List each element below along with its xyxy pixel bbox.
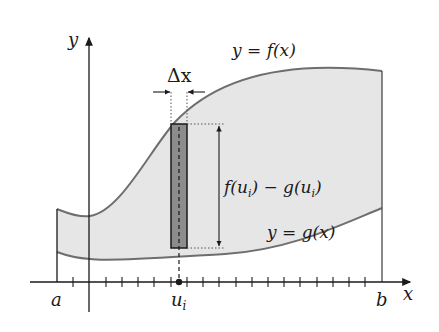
x-axis-label: x <box>403 283 413 304</box>
label-delta-x: Δx <box>167 64 192 86</box>
label-g: y = g(x) <box>266 222 335 242</box>
y-axis-label: y <box>67 29 79 50</box>
label-height: f(ui) − g(ui) <box>222 177 322 200</box>
sample-point-u-i <box>176 279 182 285</box>
label-f: y = f(x) <box>231 40 296 60</box>
label-a: a <box>51 289 62 310</box>
label-b: b <box>376 289 388 310</box>
label-u-i: ui <box>171 289 187 313</box>
area-diagram: y x a b ui y = f(x) y = g(x) Δx f(ui) − … <box>0 0 439 332</box>
